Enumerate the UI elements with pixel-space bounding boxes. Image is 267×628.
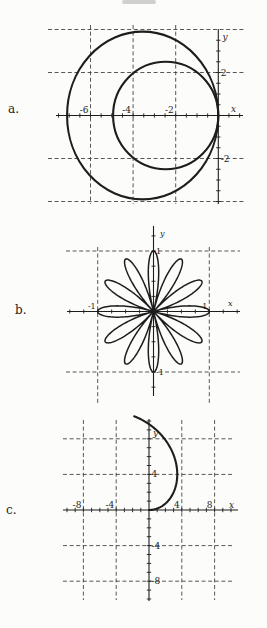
x-axis-label: x <box>231 104 236 114</box>
x-axis-label: x <box>228 299 233 308</box>
x-tick-label: -1 <box>88 302 96 311</box>
curve-spiral <box>134 416 177 510</box>
x-axis-label: x <box>229 500 234 510</box>
x-tick-label: -2 <box>165 105 174 115</box>
y-tick-label: 2 <box>221 68 227 78</box>
y-tick-label: -1 <box>156 368 164 377</box>
x-tick-label: 4 <box>174 500 180 510</box>
x-tick-label: -8 <box>73 500 82 510</box>
x-tick-label: -4 <box>105 500 114 510</box>
y-axis-label: y <box>222 32 229 42</box>
x-tick-label: 8 <box>207 500 213 510</box>
scanned-figure-page: a. b. c. -6-4-22-2xy -111-1xy -8-4484-4-… <box>0 0 267 628</box>
y-tick-label: 4 <box>152 469 158 479</box>
plot-c-polar-spiral: -8-4484-4-8xy <box>63 416 238 601</box>
y-axis-label: y <box>159 229 165 238</box>
figure-canvas: -6-4-22-2xy -111-1xy -8-4484-4-8xy <box>0 0 267 628</box>
x-tick-label: -4 <box>122 105 131 115</box>
plot-b-polar-rose: -111-1xy <box>66 226 240 405</box>
y-tick-label: -8 <box>152 576 161 586</box>
x-tick-label: -6 <box>80 105 89 115</box>
plot-a-polar-circles: -6-4-22-2xy <box>48 25 246 204</box>
y-tick-label: -4 <box>152 541 161 551</box>
y-tick-label: -2 <box>221 154 230 164</box>
